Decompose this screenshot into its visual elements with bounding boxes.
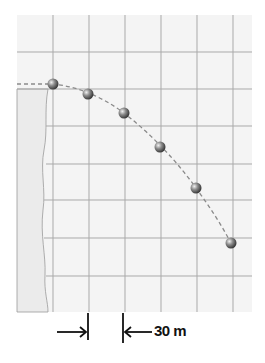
ball-icon xyxy=(48,79,59,90)
dimension-label: 30 m xyxy=(154,322,186,339)
ball-icon xyxy=(226,238,237,249)
dimension-marker xyxy=(57,313,152,343)
ball-icon xyxy=(119,108,130,119)
projectile-diagram xyxy=(0,0,265,363)
ball-icon xyxy=(83,89,94,100)
ball-icon xyxy=(191,183,202,194)
cliff xyxy=(17,89,48,312)
ball-icon xyxy=(155,142,166,153)
